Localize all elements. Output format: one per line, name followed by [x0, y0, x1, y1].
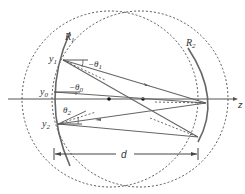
label-y0: y0	[39, 86, 48, 99]
label-y2: y2	[41, 118, 50, 131]
label-z-axis: z	[237, 100, 243, 110]
ray-segment	[54, 92, 206, 103]
resonator-diagram: R1 R2 y1 y0 y2 −θ1 −θ0 θ2 z d	[0, 0, 245, 194]
center-point-1	[107, 97, 111, 101]
ray-arrow	[144, 83, 150, 86]
distance-arrow-right	[191, 152, 197, 156]
label-theta2: θ2	[63, 105, 71, 117]
ray-segment	[58, 124, 198, 137]
mirror-2	[188, 48, 208, 142]
label-R2: R2	[185, 37, 196, 50]
label-y1: y1	[48, 53, 57, 66]
label-distance-d: d	[121, 149, 127, 160]
distance-arrow-left	[55, 152, 61, 156]
ray-segment	[63, 60, 206, 103]
